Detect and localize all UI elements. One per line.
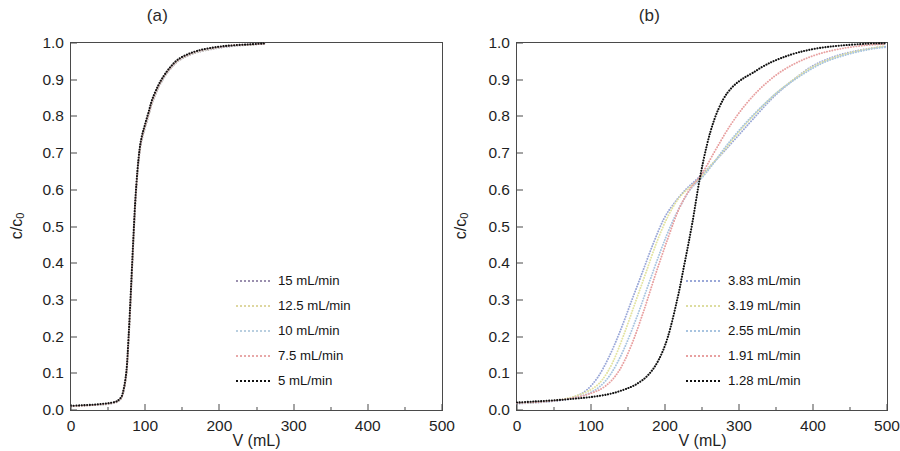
y-tick-label: 0.5 xyxy=(488,218,510,236)
panel-b-y-axis-label-sub: 0 xyxy=(458,212,470,218)
y-tick-mark xyxy=(517,116,523,117)
legend-label: 7.5 mL/min xyxy=(278,348,343,363)
y-tick-label: 0.9 xyxy=(42,71,64,89)
x-tick-mark xyxy=(591,404,592,410)
x-minor-tick-mark xyxy=(256,407,257,411)
y-tick-label: 0.1 xyxy=(488,364,510,382)
y-tick-mark xyxy=(71,263,77,264)
x-minor-tick-mark xyxy=(404,407,405,411)
y-tick-label: 1.0 xyxy=(488,34,510,52)
y-tick-label: 0.8 xyxy=(42,107,64,125)
x-minor-tick-mark xyxy=(628,407,629,411)
legend-item[interactable]: 12.5 mL/min xyxy=(236,293,351,318)
y-tick-mark xyxy=(517,189,523,190)
panel-a-legend: 15 mL/min12.5 mL/min10 mL/min7.5 mL/min5… xyxy=(236,268,351,393)
y-tick-label: 0.6 xyxy=(42,181,64,199)
x-tick-mark xyxy=(442,404,443,410)
y-tick-label: 0.4 xyxy=(488,254,510,272)
legend-label: 12.5 mL/min xyxy=(278,298,351,313)
panel-b-title: (b) xyxy=(424,6,875,26)
legend-swatch-icon xyxy=(236,355,270,357)
x-tick-mark xyxy=(665,404,666,410)
y-tick-mark xyxy=(71,79,77,80)
y-tick-mark xyxy=(71,336,77,337)
panel-a-title: (a) xyxy=(0,6,383,26)
legend-swatch-icon xyxy=(686,380,720,382)
y-tick-mark xyxy=(71,189,77,190)
y-tick-mark xyxy=(517,43,523,44)
y-tick-label: 0.7 xyxy=(42,144,64,162)
y-tick-mark xyxy=(517,336,523,337)
panel-b-legend: 3.83 mL/min3.19 mL/min2.55 mL/min1.91 mL… xyxy=(686,268,801,393)
y-tick-label: 0.9 xyxy=(488,71,510,89)
legend-label: 5 mL/min xyxy=(278,373,332,388)
legend-label: 3.19 mL/min xyxy=(728,298,801,313)
panel-a-y-axis-label-text: c/c xyxy=(8,218,25,238)
y-tick-mark xyxy=(517,79,523,80)
x-minor-tick-mark xyxy=(330,407,331,411)
legend-item[interactable]: 7.5 mL/min xyxy=(236,343,351,368)
x-tick-mark xyxy=(813,404,814,410)
legend-swatch-icon xyxy=(686,330,720,332)
y-tick-label: 0.4 xyxy=(42,254,64,272)
legend-swatch-icon xyxy=(236,330,270,332)
panel-b-y-axis-label-text: c/c xyxy=(452,218,469,238)
y-tick-mark xyxy=(71,373,77,374)
panel-b-x-axis-label: V (mL) xyxy=(516,432,889,450)
legend-item[interactable]: 2.55 mL/min xyxy=(686,318,801,343)
y-tick-mark xyxy=(71,116,77,117)
legend-swatch-icon xyxy=(236,305,270,307)
legend-item[interactable]: 1.28 mL/min xyxy=(686,368,801,393)
y-tick-label: 0.3 xyxy=(488,291,510,309)
x-tick-mark xyxy=(739,404,740,410)
legend-item[interactable]: 5 mL/min xyxy=(236,368,351,393)
legend-label: 15 mL/min xyxy=(278,273,340,288)
y-tick-mark xyxy=(71,299,77,300)
y-tick-mark xyxy=(517,299,523,300)
x-minor-tick-mark xyxy=(850,407,851,411)
y-tick-mark xyxy=(517,226,523,227)
panel-a: (a) c/c0 0.00.10.20.30.40.50.60.70.80.91… xyxy=(0,0,451,451)
legend-swatch-icon xyxy=(686,280,720,282)
panel-a-x-axis-label: V (mL) xyxy=(70,432,443,450)
y-tick-mark xyxy=(71,226,77,227)
y-tick-label: 0.1 xyxy=(42,364,64,382)
legend-item[interactable]: 10 mL/min xyxy=(236,318,351,343)
legend-label: 1.28 mL/min xyxy=(728,373,801,388)
legend-swatch-icon xyxy=(686,305,720,307)
y-tick-label: 0.3 xyxy=(42,291,64,309)
panel-b: (b) c/c0 0.00.10.20.30.40.50.60.70.80.91… xyxy=(446,0,897,451)
x-tick-mark xyxy=(517,404,518,410)
legend-swatch-icon xyxy=(236,280,270,282)
x-minor-tick-mark xyxy=(776,407,777,411)
x-minor-tick-mark xyxy=(702,407,703,411)
y-tick-mark xyxy=(517,153,523,154)
legend-item[interactable]: 15 mL/min xyxy=(236,268,351,293)
x-minor-tick-mark xyxy=(554,407,555,411)
x-minor-tick-mark xyxy=(182,407,183,411)
panel-a-y-axis-label: c/c0 xyxy=(8,212,26,239)
legend-item[interactable]: 1.91 mL/min xyxy=(686,343,801,368)
y-tick-label: 0.7 xyxy=(488,144,510,162)
y-tick-label: 0.6 xyxy=(488,181,510,199)
legend-swatch-icon xyxy=(686,355,720,357)
y-tick-label: 1.0 xyxy=(42,34,64,52)
y-tick-label: 0.2 xyxy=(488,328,510,346)
legend-item[interactable]: 3.83 mL/min xyxy=(686,268,801,293)
y-tick-label: 0.0 xyxy=(42,401,64,419)
y-tick-label: 0.8 xyxy=(488,107,510,125)
y-tick-mark xyxy=(517,410,523,411)
legend-item[interactable]: 3.19 mL/min xyxy=(686,293,801,318)
panel-b-y-axis-label: c/c0 xyxy=(452,212,470,239)
legend-label: 1.91 mL/min xyxy=(728,348,801,363)
y-tick-mark xyxy=(517,373,523,374)
legend-label: 2.55 mL/min xyxy=(728,323,801,338)
legend-label: 10 mL/min xyxy=(278,323,340,338)
y-tick-mark xyxy=(71,43,77,44)
legend-label: 3.83 mL/min xyxy=(728,273,801,288)
x-tick-mark xyxy=(219,404,220,410)
x-tick-mark xyxy=(293,404,294,410)
x-minor-tick-mark xyxy=(108,407,109,411)
y-tick-label: 0.0 xyxy=(488,401,510,419)
